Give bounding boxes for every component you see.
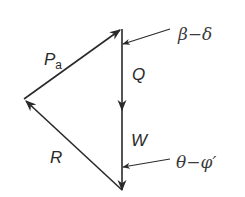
label-w: W: [131, 131, 149, 150]
label-beta-delta: β−δ: [177, 24, 212, 44]
label-theta-phi: θ−φ′: [176, 152, 216, 172]
angle-pointer-theta-phi: [123, 159, 170, 167]
vector-pa: [24, 30, 120, 99]
label-q: Q: [132, 65, 145, 84]
angle-pointer-beta-delta: [123, 29, 170, 44]
force-polygon-diagram: Pa Q W R β−δ θ−φ′: [0, 0, 245, 197]
label-pa: Pa: [44, 50, 62, 72]
label-r: R: [50, 148, 62, 167]
vector-r: [26, 101, 122, 190]
